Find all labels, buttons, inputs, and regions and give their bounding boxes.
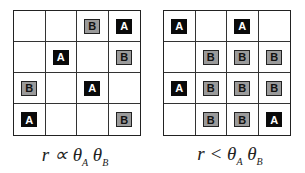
- left-caption: r ∝ θA θB: [0, 143, 150, 168]
- caption-variable: r: [42, 144, 49, 165]
- grid-cell: [14, 11, 46, 42]
- caption-subscript: B: [257, 156, 263, 167]
- grid-cell: A: [14, 104, 46, 135]
- token-b: B: [266, 50, 282, 65]
- grid-cell: [196, 11, 228, 42]
- caption-subscript: B: [102, 157, 108, 168]
- grid-cell: B: [109, 104, 141, 135]
- token-a: A: [84, 81, 100, 96]
- right-caption: r < θA θB: [155, 143, 305, 167]
- token-b: B: [116, 112, 132, 127]
- caption-subscript: A: [236, 156, 242, 167]
- grid-cell: B: [196, 42, 228, 73]
- grid-cell: A: [164, 11, 196, 42]
- caption-theta: θ: [93, 144, 102, 165]
- grid-cell: B: [227, 73, 259, 104]
- token-b: B: [84, 19, 100, 34]
- grid-cell: B: [109, 42, 141, 73]
- caption-theta: θ: [247, 143, 256, 164]
- token-b: B: [203, 50, 219, 65]
- caption-theta: θ: [227, 143, 236, 164]
- caption-operator: ∝: [54, 144, 68, 165]
- grid-cell: [46, 104, 78, 135]
- grid-cell: [109, 73, 141, 104]
- right-grid: AABBBABBBBBA: [163, 10, 291, 136]
- grid-cell: A: [109, 11, 141, 42]
- grid-cell: [259, 11, 291, 42]
- token-a: A: [53, 50, 69, 65]
- grid-cell: A: [259, 104, 291, 135]
- grid-cell: [14, 42, 46, 73]
- grid-cell: B: [227, 104, 259, 135]
- token-b: B: [203, 112, 219, 127]
- grid-cell: B: [259, 73, 291, 104]
- token-b: B: [21, 81, 37, 96]
- grid-cell: A: [164, 73, 196, 104]
- token-b: B: [234, 50, 250, 65]
- token-b: B: [234, 81, 250, 96]
- grid-cell: A: [46, 42, 78, 73]
- caption-theta: θ: [73, 144, 82, 165]
- grid-cell: [46, 73, 78, 104]
- grid-cell: B: [196, 73, 228, 104]
- grid-cell: [77, 104, 109, 135]
- grid-cell: [77, 42, 109, 73]
- token-a: A: [266, 112, 282, 127]
- token-b: B: [266, 81, 282, 96]
- token-a: A: [171, 81, 187, 96]
- token-a: A: [234, 19, 250, 34]
- grid-cell: A: [77, 73, 109, 104]
- grid-cell: A: [227, 11, 259, 42]
- token-a: A: [21, 112, 37, 127]
- grid-cell: [164, 104, 196, 135]
- grid-cell: B: [227, 42, 259, 73]
- caption-variable: r: [197, 143, 204, 164]
- token-b: B: [203, 81, 219, 96]
- left-grid: BAABBAAB: [13, 10, 141, 136]
- grid-cell: [164, 42, 196, 73]
- grid-cell: [46, 11, 78, 42]
- token-a: A: [116, 19, 132, 34]
- grid-cell: B: [14, 73, 46, 104]
- token-b: B: [116, 50, 132, 65]
- token-b: B: [234, 112, 250, 127]
- grid-cell: B: [196, 104, 228, 135]
- grid-cell: B: [259, 42, 291, 73]
- token-a: A: [171, 19, 187, 34]
- caption-operator: <: [209, 143, 222, 164]
- grid-cell: B: [77, 11, 109, 42]
- caption-subscript: A: [82, 157, 88, 168]
